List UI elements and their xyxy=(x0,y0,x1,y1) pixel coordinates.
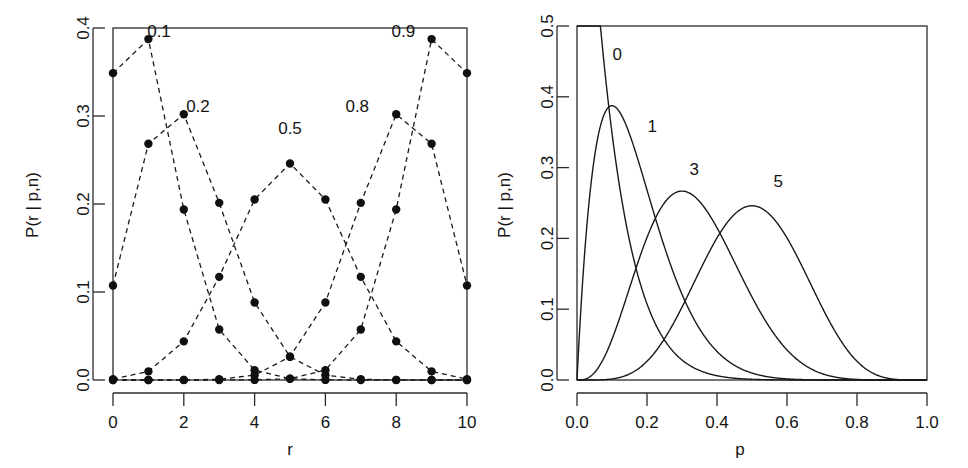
data-point xyxy=(215,325,223,333)
data-point xyxy=(180,376,188,384)
likelihood-curve xyxy=(577,206,927,380)
x-axis-label: r xyxy=(287,440,293,459)
left-axes: 02468100.00.10.20.30.4 xyxy=(74,16,476,432)
data-point xyxy=(321,298,329,306)
data-point xyxy=(321,195,329,203)
plot-box xyxy=(577,26,927,380)
data-point xyxy=(250,195,258,203)
chart-panel-left: 02468100.00.10.20.30.4 0.10.20.50.80.9 r… xyxy=(0,0,484,468)
x-tick-label: 4 xyxy=(250,413,259,432)
data-point xyxy=(463,281,471,289)
data-point xyxy=(215,199,223,207)
figure-container: 02468100.00.10.20.30.4 0.10.20.50.80.9 r… xyxy=(0,0,968,468)
y-axis-label: P(r | p,n) xyxy=(495,172,514,238)
data-point xyxy=(392,376,400,384)
series-label: 1 xyxy=(648,117,657,136)
y-tick-label: 0.5 xyxy=(538,14,557,38)
chart-panel-right: 0.00.20.40.60.81.00.00.10.20.30.40.5 013… xyxy=(484,0,968,468)
data-point xyxy=(250,298,258,306)
data-point xyxy=(463,375,471,383)
data-point xyxy=(392,110,400,118)
data-point xyxy=(463,69,471,77)
pmf-dashed-line xyxy=(113,114,467,380)
right-axes: 0.00.20.40.60.81.00.00.10.20.30.40.5 xyxy=(538,14,939,432)
x-tick-label: 0.4 xyxy=(705,413,729,432)
data-point xyxy=(286,159,294,167)
x-tick-label: 8 xyxy=(391,413,400,432)
data-point xyxy=(215,273,223,281)
left-curve-labels: 0.10.20.50.80.9 xyxy=(147,22,415,138)
data-point xyxy=(427,35,435,43)
y-tick-label: 0.1 xyxy=(74,280,93,304)
data-point xyxy=(357,199,365,207)
y-tick-label: 0.4 xyxy=(538,85,557,109)
left-series-group xyxy=(109,35,471,384)
data-point xyxy=(286,353,294,361)
right-curve-labels: 0135 xyxy=(613,45,783,191)
data-point xyxy=(109,69,117,77)
y-tick-label: 0.3 xyxy=(74,104,93,128)
data-point xyxy=(215,376,223,384)
data-point xyxy=(427,376,435,384)
data-point xyxy=(250,376,258,384)
pmf-dashed-line xyxy=(113,39,467,380)
x-tick-label: 1.0 xyxy=(915,413,939,432)
y-tick-label: 0.2 xyxy=(74,192,93,216)
data-point xyxy=(286,374,294,382)
data-point xyxy=(109,376,117,384)
data-point xyxy=(392,205,400,213)
x-tick-label: 0 xyxy=(108,413,117,432)
x-tick-label: 0.8 xyxy=(845,413,869,432)
series-label: 0.5 xyxy=(278,119,302,138)
x-tick-label: 0.6 xyxy=(775,413,799,432)
series-label: 0.1 xyxy=(147,22,171,41)
data-point xyxy=(180,337,188,345)
y-tick-label: 0.0 xyxy=(538,368,557,392)
x-tick-label: 0.2 xyxy=(635,413,659,432)
x-tick-label: 6 xyxy=(321,413,330,432)
x-tick-label: 10 xyxy=(458,413,477,432)
data-point xyxy=(144,367,152,375)
series-label: 0.2 xyxy=(186,97,210,116)
y-tick-label: 0.2 xyxy=(538,227,557,251)
y-tick-label: 0.1 xyxy=(538,297,557,321)
likelihood-curve xyxy=(577,191,927,380)
plot-box xyxy=(113,28,467,380)
series-label: 5 xyxy=(774,172,783,191)
y-tick-label: 0.3 xyxy=(538,156,557,180)
pmf-dashed-line xyxy=(113,114,467,380)
x-tick-label: 2 xyxy=(179,413,188,432)
series-label: 0.9 xyxy=(391,22,415,41)
data-point xyxy=(357,273,365,281)
data-point xyxy=(427,140,435,148)
x-axis-label: p xyxy=(735,440,744,459)
y-tick-label: 0.0 xyxy=(74,368,93,392)
series-label: 0.8 xyxy=(345,97,369,116)
data-point xyxy=(357,325,365,333)
data-point xyxy=(180,205,188,213)
right-series-group xyxy=(577,26,927,380)
series-label: 3 xyxy=(690,160,699,179)
pmf-dashed-line xyxy=(113,163,467,379)
data-point xyxy=(144,376,152,384)
y-tick-label: 0.4 xyxy=(74,16,93,40)
data-point xyxy=(357,375,365,383)
binomial-likelihood-plot: 0.00.20.40.60.81.00.00.10.20.30.40.5 013… xyxy=(484,0,968,468)
pmf-dashed-line xyxy=(113,39,467,380)
data-point xyxy=(392,337,400,345)
data-point xyxy=(144,140,152,148)
likelihood-curve xyxy=(577,26,927,380)
y-axis-label: P(r | p,n) xyxy=(23,172,42,238)
data-point xyxy=(109,281,117,289)
x-tick-label: 0.0 xyxy=(565,413,589,432)
binomial-pmf-plot: 02468100.00.10.20.30.4 0.10.20.50.80.9 r… xyxy=(0,0,484,468)
data-point xyxy=(427,367,435,375)
data-point xyxy=(321,366,329,374)
series-label: 0 xyxy=(613,45,622,64)
